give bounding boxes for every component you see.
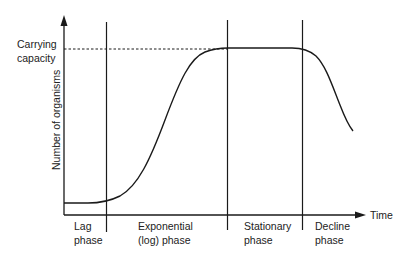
lag-phase-label-line1: Lag xyxy=(74,220,92,233)
lag-phase-label-line2: phase xyxy=(74,234,103,247)
y-axis-label: Number of organisms xyxy=(50,70,62,170)
carrying-capacity-label-line1: Carrying xyxy=(17,38,57,51)
y-axis-arrow-icon xyxy=(61,15,68,26)
exponential-phase-label-line1: Exponential xyxy=(138,220,193,233)
x-axis-label: Time xyxy=(370,209,393,222)
stationary-phase-label-line2: phase xyxy=(244,234,273,247)
growth-curve xyxy=(64,48,353,203)
exponential-phase-label-line2: (log) phase xyxy=(138,234,191,247)
x-axis-arrow-icon xyxy=(355,212,366,219)
decline-phase-label-line1: Decline xyxy=(315,220,350,233)
decline-phase-label-line2: phase xyxy=(315,234,344,247)
stationary-phase-label-line1: Stationary xyxy=(244,220,291,233)
carrying-capacity-label-line2: capacity xyxy=(17,52,56,65)
